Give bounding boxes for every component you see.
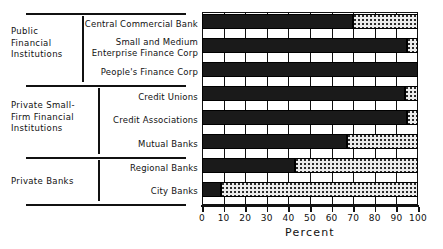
bar-segment-remainder [353,14,418,29]
bar-row [202,14,418,29]
bar-segment-filled [202,158,295,173]
x-tick-20 [245,207,247,212]
x-tick-label-80: 80 [369,213,381,223]
group-label-private-banks: Private Banks [11,176,74,188]
x-axis-title: Percent [202,226,418,239]
series-label-peoples-finance-corp: People's Finance Corp [101,67,198,78]
bar-segment-filled [202,182,221,197]
bar-row [202,38,418,53]
bar-segment-filled [202,110,407,125]
x-tick-label-90: 90 [390,213,402,223]
bar-row [202,86,418,101]
bar-segment-remainder [221,182,418,197]
series-label-regional-banks: Regional Banks [130,163,198,174]
x-tick-label-50: 50 [304,213,316,223]
bar-row [202,110,418,125]
group-separator-2 [26,157,186,159]
bar-segment-filled [202,62,418,77]
bar-segment-remainder [407,38,418,53]
x-tick-label-20: 20 [239,213,251,223]
bar-segment-filled [202,38,407,53]
series-label-central-commercial-bank: Central Commercial Bank [85,19,198,30]
group-bracket-public [82,16,84,82]
x-tick-label-70: 70 [347,213,359,223]
group-label-private-small-firm-financial-institutions: Private Small- Firm Financial Institutio… [11,100,75,135]
bar-segment-remainder [295,158,418,173]
bar-row [202,62,418,77]
group-separator-bottom [26,204,186,206]
bar-segment-filled [202,14,353,29]
x-tick-40 [288,207,290,212]
x-tick-label-0: 0 [199,213,205,223]
bar-segment-remainder [407,110,418,125]
bar-row [202,134,418,149]
x-tick-90 [396,207,398,212]
x-tick-80 [375,207,377,212]
bar-row [202,182,418,197]
x-tick-10 [224,207,226,212]
group-bracket-private-small [98,88,100,154]
series-label-city-banks: City Banks [151,186,198,197]
x-tick-70 [353,207,355,212]
bar-segment-remainder [405,86,418,101]
x-tick-label-40: 40 [282,213,294,223]
x-tick-label-100: 100 [409,213,427,223]
x-tick-label-60: 60 [326,213,338,223]
series-label-small-and-medium-enterprise-finance-corp: Small and Medium Enterprise Finance Corp [92,37,198,59]
bar-segment-remainder [347,134,418,149]
x-tick-60 [332,207,334,212]
x-axis: 0102030405060708090100 [202,205,418,206]
series-label-credit-unions: Credit Unions [138,92,198,103]
series-label-mutual-banks: Mutual Banks [138,139,198,150]
group-separator-top [26,13,186,15]
bar-row [202,158,418,173]
stacked-bar-chart: Public Financial Institutions Private Sm… [0,0,443,249]
x-tick-30 [267,207,269,212]
x-tick-label-30: 30 [261,213,273,223]
x-tick-100 [418,207,420,212]
x-tick-0 [202,207,204,212]
group-separator-1 [26,85,186,87]
x-tick-label-10: 10 [218,213,230,223]
plot-area [202,12,418,205]
bar-segment-filled [202,86,405,101]
group-label-public-financial-institutions: Public Financial Institutions [11,26,63,61]
bar-segment-filled [202,134,347,149]
group-bracket-private-banks [98,160,100,201]
x-tick-50 [310,207,312,212]
series-label-credit-associations: Credit Associations [113,115,198,126]
